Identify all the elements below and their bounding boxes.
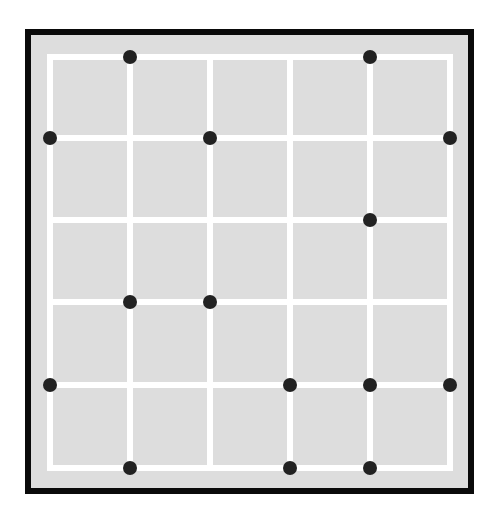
dot-marker[interactable] [283,378,297,392]
grid-line-horizontal-5 [47,465,453,471]
dot-marker[interactable] [43,131,57,145]
dot-marker[interactable] [123,295,137,309]
grid-line-vertical-5 [447,54,453,471]
dot-marker[interactable] [123,461,137,475]
grid-line-vertical-1 [127,54,133,471]
dot-marker[interactable] [363,50,377,64]
dot-marker[interactable] [363,461,377,475]
dot-marker[interactable] [443,378,457,392]
puzzle-board [25,29,474,494]
dot-marker[interactable] [203,295,217,309]
grid-line-horizontal-2 [47,217,453,223]
grid-line-vertical-2 [207,54,213,471]
grid-line-horizontal-4 [47,382,453,388]
dot-marker[interactable] [363,378,377,392]
dot-marker[interactable] [203,131,217,145]
dot-marker[interactable] [443,131,457,145]
grid-line-vertical-3 [287,54,293,471]
dot-marker[interactable] [283,461,297,475]
grid-line-horizontal-1 [47,135,453,141]
dot-marker[interactable] [123,50,137,64]
grid-line-vertical-0 [47,54,53,471]
grid-line-horizontal-3 [47,299,453,305]
dot-marker[interactable] [363,213,377,227]
dot-marker[interactable] [43,378,57,392]
grid-line-vertical-4 [367,54,373,471]
grid-line-horizontal-0 [47,54,453,60]
